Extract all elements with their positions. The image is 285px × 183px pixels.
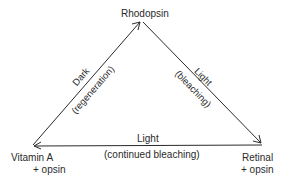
edge-bottom-label-light: Light (137, 133, 159, 144)
node-retinal: Retinal (242, 152, 273, 163)
arrow-continued-bleaching (34, 145, 262, 146)
arrow-dark-regeneration (33, 22, 140, 145)
edge-bottom-label-continued-bleaching: (continued bleaching) (104, 149, 200, 160)
node-rhodopsin: Rhodopsin (121, 8, 169, 19)
node-retinal-opsin: + opsin (241, 164, 274, 175)
node-vitamin-a-opsin: + opsin (33, 164, 66, 175)
node-vitamin-a: Vitamin A (11, 152, 53, 163)
